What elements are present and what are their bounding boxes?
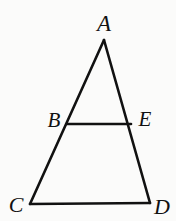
vertex-label-a: A: [97, 12, 111, 35]
vertex-label-d: D: [154, 196, 170, 218]
base-CD-line: [30, 203, 150, 204]
vertex-label-c: C: [9, 194, 24, 216]
vertex-label-e: E: [139, 109, 152, 130]
geometry-figure: A B E C D: [0, 0, 176, 221]
vertex-label-b: B: [48, 110, 61, 131]
